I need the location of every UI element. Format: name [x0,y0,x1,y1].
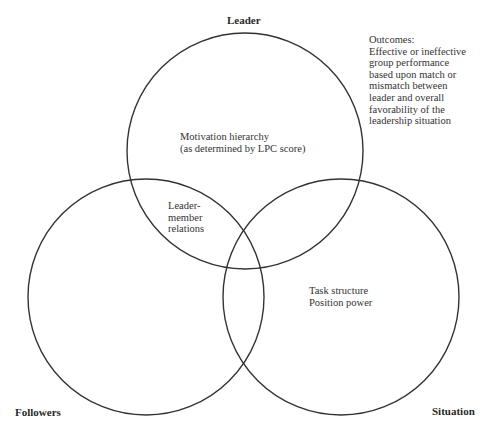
relations-line: relations [168,223,204,235]
outcomes-line: mismatch between [369,80,466,92]
task-line: Position power [309,297,372,309]
motivation-line: (as determined by LPC score) [180,143,305,155]
followers-label: Followers [15,407,61,419]
situation-label: Situation [432,406,475,418]
leader-label: Leader [227,15,261,27]
leader-member-relations-text: Leader- member relations [168,200,204,235]
outcomes-line: based upon match or [369,69,466,81]
outcomes-line: leadership situation [369,115,466,127]
relations-line: member [168,212,204,224]
outcomes-line: Effective or ineffective [369,46,466,58]
task-line: Task structure [309,285,372,297]
outcomes-line: group performance [369,57,466,69]
motivation-hierarchy-text: Motivation hierarchy (as determined by L… [180,131,305,154]
outcomes-line: leader and overall [369,92,466,104]
motivation-line: Motivation hierarchy [180,131,305,143]
relations-line: Leader- [168,200,204,212]
outcomes-line: favorability of the [369,104,466,116]
outcomes-text: Outcomes: Effective or ineffective group… [369,34,466,127]
outcomes-heading: Outcomes: [369,34,466,46]
task-structure-text: Task structure Position power [309,285,372,308]
